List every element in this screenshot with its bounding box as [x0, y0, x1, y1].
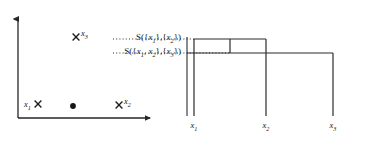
scatter-label-x1: x1: [24, 100, 31, 111]
scatter-marker-x1: [35, 101, 42, 108]
scatter-label-x2: x2: [124, 97, 131, 108]
scatter-marker-x3: [73, 34, 80, 41]
scatter-axes-svg: [0, 0, 165, 141]
scatter-marker-x2: [116, 102, 123, 109]
dendrogram-panel: S({x1},{x2}) S({x1, x2},{x3}) x1: [165, 0, 381, 141]
scatter-plot-panel: x1 x3 x2: [0, 0, 165, 141]
dendrogram-svg: [165, 0, 381, 141]
scatter-label-x3: x3: [81, 29, 88, 40]
dendrogram-leaf-label-x3: x3: [330, 121, 337, 132]
scatter-marker-unlabeled-point: [70, 103, 76, 109]
dendrogram-leaf-label-x2: x2: [263, 121, 270, 132]
dendrogram-leaf-label-x1: x1: [191, 121, 198, 132]
clustering-figure: x1 x3 x2 S({x1},{x2}) S({x1, x2},{x3}): [0, 0, 381, 141]
